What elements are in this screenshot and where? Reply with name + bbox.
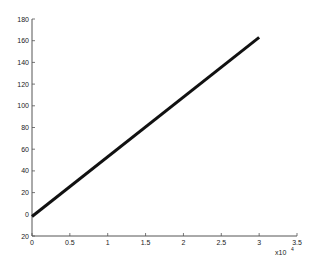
y-tick-label: 20 [21, 189, 29, 196]
x-tick-label: 1.5 [141, 239, 151, 246]
line-chart: 00.511.522.533.5200204060801001201401601… [0, 0, 317, 272]
x-tick-label: 2.5 [216, 239, 226, 246]
y-tick-label: 40 [21, 167, 29, 174]
series-line [32, 37, 259, 216]
axes [32, 19, 297, 236]
x-tick-label: 3.5 [292, 239, 302, 246]
y-tick-label: 20 [21, 233, 29, 240]
x-multiplier-exponent: 4 [291, 246, 294, 252]
data-series [32, 37, 259, 216]
tick-labels: 00.511.522.533.5200204060801001201401601… [17, 16, 302, 257]
y-tick-label: 160 [17, 37, 29, 44]
y-tick-label: 120 [17, 81, 29, 88]
y-tick-label: 80 [21, 124, 29, 131]
y-tick-label: 0 [25, 211, 29, 218]
y-tick-label: 60 [21, 146, 29, 153]
x-tick-label: 0 [30, 239, 34, 246]
x-tick-label: 3 [257, 239, 261, 246]
x-tick-label: 2 [181, 239, 185, 246]
x-multiplier: x10 [275, 249, 286, 256]
x-tick-label: 0.5 [65, 239, 75, 246]
y-tick-label: 180 [17, 16, 29, 23]
x-tick-label: 1 [106, 239, 110, 246]
y-tick-label: 100 [17, 102, 29, 109]
y-tick-label: 140 [17, 59, 29, 66]
